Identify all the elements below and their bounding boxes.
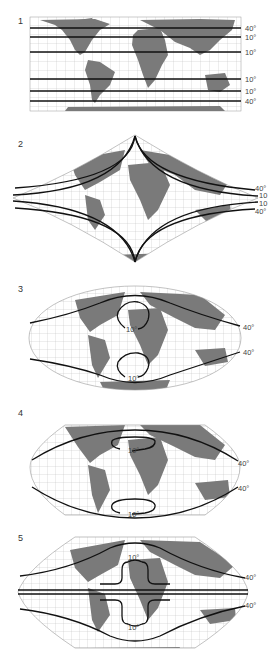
panel-4: 4 40° 40° 10° 10°: [0, 395, 269, 520]
cylindrical-map: 40° 10° 10° 10° 10° 40°: [0, 0, 269, 115]
isoline-label: 10°: [245, 75, 256, 84]
flat-pole-map: 40° 40° 10° 10°: [0, 395, 269, 520]
panel-5: 5: [0, 520, 269, 663]
isoline-label: 10°: [245, 87, 256, 96]
isoline-label: 10°: [126, 325, 137, 334]
isoline-label: 10°: [128, 623, 139, 632]
pointed-pole-map: 40° 40° 10° 10°: [0, 520, 269, 663]
mollweide-map: 40° 40° 10° 10°: [0, 270, 269, 395]
isoline-label: 40°: [245, 24, 256, 33]
isoline-label: 10°: [128, 446, 139, 455]
sinusoidal-map: 40° 10 10 40°: [0, 120, 269, 270]
isoline-label: 40°: [245, 601, 256, 610]
isoline-label: 40°: [238, 484, 249, 493]
panel-2: 2 40° 10: [0, 120, 269, 270]
isoline-label: 10°: [128, 553, 139, 562]
isoline-label: 40°: [245, 573, 256, 582]
isoline-label: 10°: [128, 510, 139, 519]
panel-1: 1 40° 10° 10° 10° 10° 40: [0, 0, 269, 115]
panel-3: 3 40° 40° 10° 10°: [0, 270, 269, 395]
isoline-label: 40°: [238, 459, 249, 468]
isoline-label: 10°: [245, 33, 256, 42]
isoline-label: 40°: [243, 323, 254, 332]
isoline-label: 10°: [245, 48, 256, 57]
isoline-label: 40°: [255, 207, 266, 216]
isoline-label: 40°: [245, 97, 256, 106]
isoline-label: 40°: [243, 348, 254, 357]
isoline-label: 10°: [128, 374, 139, 383]
